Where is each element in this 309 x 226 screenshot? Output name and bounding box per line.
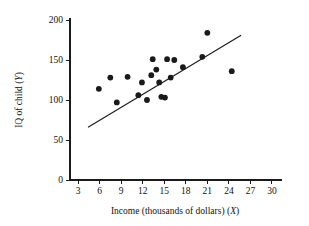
x-tick-label: 15 xyxy=(159,186,169,196)
data-point xyxy=(150,56,156,62)
scatter-plot-figure: 050100150200 36912151821242730 Income (t… xyxy=(0,0,309,226)
y-axis-title: IQ of child (Y) xyxy=(14,72,25,128)
trend-line xyxy=(88,35,241,127)
x-tick-label: 21 xyxy=(203,186,213,196)
regression-line xyxy=(88,35,241,127)
x-tick-label: 3 xyxy=(76,186,81,196)
data-point xyxy=(144,97,150,103)
data-point xyxy=(139,80,145,86)
y-tick-label: 150 xyxy=(49,55,64,65)
x-tick-label: 27 xyxy=(246,186,256,196)
plot-canvas: 050100150200 36912151821242730 Income (t… xyxy=(0,0,309,226)
y-tick-label: 0 xyxy=(58,175,63,185)
x-tick-label: 24 xyxy=(224,186,234,196)
data-point xyxy=(107,75,113,81)
y-tick-label: 200 xyxy=(49,15,64,25)
data-point xyxy=(148,72,154,78)
y-tick-label: 100 xyxy=(49,95,64,105)
data-point xyxy=(114,100,120,106)
x-axis-ticks: 36912151821242730 xyxy=(76,180,277,196)
x-tick-label: 9 xyxy=(119,186,124,196)
data-point xyxy=(162,95,168,101)
data-point xyxy=(153,67,159,73)
data-point xyxy=(96,86,102,92)
x-tick-label: 30 xyxy=(267,186,277,196)
axes xyxy=(70,18,282,180)
x-tick-label: 12 xyxy=(138,186,148,196)
data-point xyxy=(204,30,210,36)
x-axis-title: Income (thousands of dollars) (X) xyxy=(111,206,239,217)
data-points xyxy=(96,30,235,105)
x-tick-label: 6 xyxy=(97,186,102,196)
y-axis-ticks: 050100150200 xyxy=(49,15,70,185)
data-point xyxy=(164,56,170,62)
data-point xyxy=(229,68,235,74)
data-point xyxy=(125,74,131,80)
data-point xyxy=(171,57,177,63)
x-tick-label: 18 xyxy=(181,186,191,196)
y-tick-label: 50 xyxy=(54,135,64,145)
